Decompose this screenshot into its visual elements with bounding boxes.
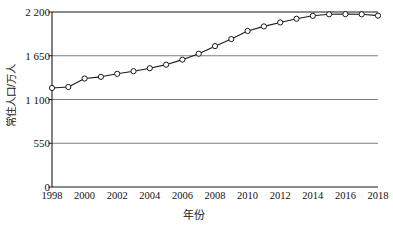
data-point-marker [261, 24, 266, 29]
x-tick-label: 2014 [296, 190, 330, 201]
data-point-marker [343, 12, 348, 17]
x-tick-label: 2010 [231, 190, 265, 201]
x-tick-label: 2012 [263, 190, 297, 201]
data-point-marker [49, 85, 54, 90]
data-point-marker [359, 12, 364, 17]
data-point-marker [375, 13, 380, 18]
data-point-marker [147, 66, 152, 71]
x-tick-label: 2002 [100, 190, 134, 201]
x-tick-label: 2008 [198, 190, 232, 201]
x-tick-label: 1998 [35, 190, 69, 201]
data-point-marker [229, 36, 234, 41]
x-tick-label: 2004 [133, 190, 167, 201]
x-tick-label: 2006 [165, 190, 199, 201]
x-tick-label: 2018 [361, 190, 393, 201]
data-point-marker [131, 69, 136, 74]
data-point-marker [212, 44, 217, 49]
data-point-marker [294, 16, 299, 21]
data-point-marker [278, 20, 283, 25]
x-axis-title: 年份 [0, 206, 387, 222]
data-point-marker [196, 51, 201, 56]
data-point-marker [245, 28, 250, 33]
data-point-marker [98, 74, 103, 79]
data-point-marker [310, 13, 315, 18]
data-point-marker [82, 76, 87, 81]
data-point-marker [115, 71, 120, 76]
x-tick-label: 2000 [68, 190, 102, 201]
data-point-marker [180, 57, 185, 62]
x-tick-label: 2016 [328, 190, 362, 201]
data-point-marker [164, 62, 169, 67]
data-point-marker [66, 84, 71, 89]
data-point-marker [327, 12, 332, 17]
